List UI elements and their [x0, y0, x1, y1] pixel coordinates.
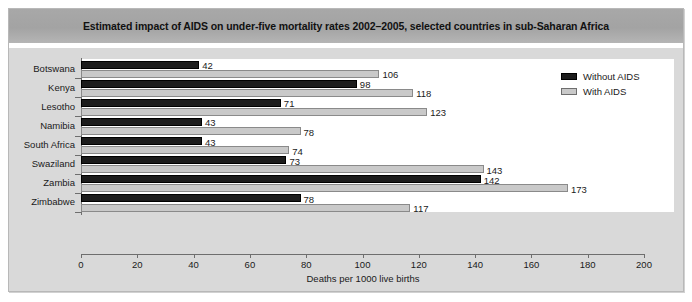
y-axis-label-swaziland: Swaziland	[9, 158, 75, 169]
y-axis-label-namibia: Namibia	[9, 120, 75, 131]
bar-swaziland-without-aids	[81, 156, 286, 164]
y-axis-label-botswana: Botswana	[9, 63, 75, 74]
chart-legend: Without AIDS With AIDS	[561, 70, 640, 100]
x-axis-title: Deaths per 1000 live births	[81, 273, 645, 284]
x-axis-tick	[588, 254, 589, 258]
bar-south-africa-without-aids	[81, 137, 202, 145]
bar-botswana-with-aids	[81, 70, 379, 78]
x-axis-tick	[531, 254, 532, 258]
y-axis-tick	[75, 212, 81, 213]
bar-swaziland-with-aids	[81, 165, 484, 173]
bar-zambia-without-aids	[81, 175, 481, 183]
bar-lesotho-without-aids	[81, 99, 281, 107]
legend-label-without-aids: Without AIDS	[583, 71, 640, 82]
x-axis-tick-label: 40	[188, 259, 199, 270]
bar-zimbabwe-without-aids	[81, 194, 301, 202]
bar-south-africa-with-aids	[81, 146, 289, 154]
bar-zimbabwe-with-aids	[81, 204, 410, 212]
legend-item-without-aids: Without AIDS	[561, 70, 640, 83]
x-axis-tick	[363, 254, 364, 258]
x-axis-tick-label: 20	[132, 259, 143, 270]
y-axis-label-south-africa: South Africa	[9, 139, 75, 150]
x-axis-tick-label: 200	[636, 259, 652, 270]
bar-value-zimbabwe-with-aids: 117	[413, 204, 428, 214]
x-axis-tick-label: 160	[523, 259, 539, 270]
chart-title-band: Estimated impact of AIDS on under-five m…	[9, 9, 683, 43]
x-axis-tick	[475, 254, 476, 258]
y-axis-label-zambia: Zambia	[9, 177, 75, 188]
bar-value-botswana-with-aids: 106	[382, 70, 398, 80]
bar-kenya-without-aids	[81, 80, 357, 88]
x-axis-tick	[81, 254, 82, 258]
bar-botswana-without-aids	[81, 61, 199, 69]
chart-title: Estimated impact of AIDS on under-five m…	[83, 20, 609, 32]
x-axis-tick	[306, 254, 307, 258]
x-axis-tick	[250, 254, 251, 258]
bar-value-south-africa-with-aids: 74	[292, 147, 303, 157]
x-axis-tick-label: 100	[355, 259, 371, 270]
x-axis-tick-label: 140	[467, 259, 483, 270]
bar-namibia-with-aids	[81, 127, 301, 135]
bar-zambia-with-aids	[81, 184, 568, 192]
chart-figure: Estimated impact of AIDS on under-five m…	[0, 0, 692, 302]
bar-namibia-without-aids	[81, 118, 202, 126]
x-axis-tick	[419, 254, 420, 258]
x-axis-tick	[644, 254, 645, 258]
x-axis-tick-label: 180	[580, 259, 596, 270]
black-swatch-icon	[561, 73, 577, 80]
y-axis-label-lesotho: Lesotho	[9, 101, 75, 112]
plot-area-right-padding	[644, 59, 674, 212]
x-axis-tick-label: 60	[245, 259, 256, 270]
legend-label-with-aids: With AIDS	[583, 86, 626, 97]
bar-value-swaziland-with-aids: 143	[487, 166, 503, 176]
chart-frame: Estimated impact of AIDS on under-five m…	[8, 8, 684, 292]
y-axis-label-zimbabwe: Zimbabwe	[9, 196, 75, 207]
x-axis-tick	[137, 254, 138, 258]
bar-lesotho-with-aids	[81, 108, 427, 116]
x-axis-tick-label: 0	[78, 259, 83, 270]
gray-swatch-icon	[561, 88, 577, 95]
bar-value-namibia-with-aids: 78	[304, 128, 315, 138]
bar-value-kenya-with-aids: 118	[416, 89, 431, 99]
x-axis-tick	[194, 254, 195, 258]
legend-item-with-aids: With AIDS	[561, 85, 640, 98]
x-axis-tick-label: 120	[411, 259, 427, 270]
chart-body: BotswanaKenyaLesothoNamibiaSouth AfricaS…	[9, 48, 683, 291]
x-axis-tick-label: 80	[301, 259, 312, 270]
bar-value-zambia-with-aids: 173	[571, 185, 587, 195]
bar-kenya-with-aids	[81, 89, 413, 97]
bar-value-lesotho-with-aids: 123	[430, 108, 446, 118]
y-axis-label-kenya: Kenya	[9, 82, 75, 93]
